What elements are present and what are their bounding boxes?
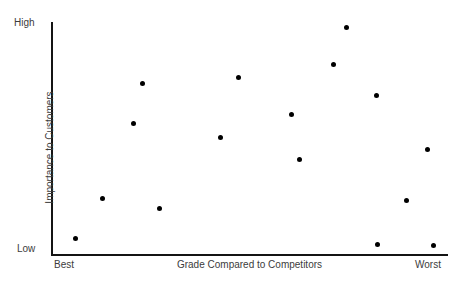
data-point [425, 147, 430, 152]
data-point [218, 135, 223, 140]
data-point [100, 196, 105, 201]
y-axis-high-label: High [14, 17, 35, 28]
data-point [404, 198, 409, 203]
data-point [331, 62, 336, 67]
x-axis-title: Grade Compared to Competitors [51, 259, 448, 270]
plot-area [53, 22, 448, 254]
data-point [131, 121, 136, 126]
data-point [431, 243, 436, 248]
scatter-chart: High Low Best Worst Importance to Custom… [0, 0, 473, 294]
data-point [73, 236, 78, 241]
data-point [289, 112, 294, 117]
data-point [157, 206, 162, 211]
x-axis-line [51, 254, 448, 256]
data-point [140, 81, 145, 86]
data-point [375, 242, 380, 247]
y-axis-low-label: Low [17, 243, 35, 254]
data-point [236, 75, 241, 80]
data-point [297, 157, 302, 162]
data-point [344, 25, 349, 30]
data-point [374, 93, 379, 98]
